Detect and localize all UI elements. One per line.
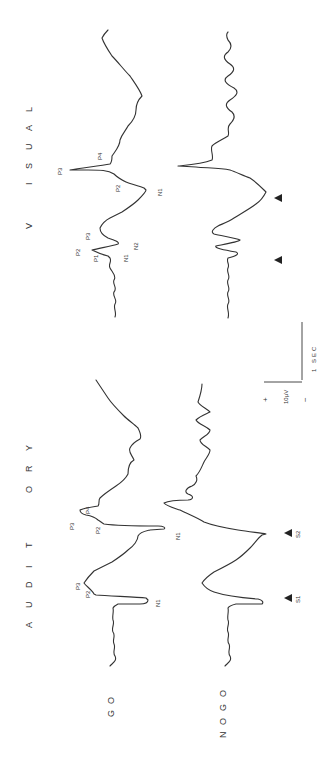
visual-nogo-waveform (178, 32, 266, 318)
svg-text:G: G (106, 710, 116, 717)
scale-bar: 1 SEC + 10μV − (261, 322, 317, 404)
svg-text:N: N (218, 732, 228, 739)
svg-text:O: O (218, 718, 228, 725)
svg-text:P2: P2 (75, 248, 81, 256)
svg-text:P4: P4 (97, 152, 103, 160)
svg-text:10μV: 10μV (283, 390, 289, 404)
svg-text:U: U (24, 144, 34, 151)
s2-marker-icon (284, 529, 292, 537)
auditory-nogo-waveform (164, 384, 266, 666)
svg-text:N1: N1 (123, 254, 129, 262)
auditory-title: A U D I T O R Y (24, 445, 34, 628)
svg-text:S: S (24, 163, 34, 169)
svg-text:+: + (261, 397, 270, 402)
auditory-go-peak-labels: P2 P3 N1 P2 P3 P4 N1 (69, 506, 181, 607)
svg-text:Y: Y (24, 445, 34, 451)
svg-text:G: G (218, 704, 228, 711)
svg-text:T: T (24, 542, 34, 548)
svg-text:P1: P1 (93, 254, 99, 262)
svg-text:I: I (24, 182, 34, 185)
svg-text:N1: N1 (175, 532, 181, 540)
svg-text:V: V (24, 223, 34, 229)
svg-text:P2: P2 (95, 526, 101, 534)
svg-text:A: A (24, 125, 34, 131)
svg-text:O: O (106, 697, 116, 704)
svg-text:O: O (218, 690, 228, 697)
s1-marker-icon (284, 594, 292, 602)
svg-text:−: − (301, 397, 310, 402)
svg-text:A: A (24, 622, 34, 628)
svg-text:1 SEC: 1 SEC (311, 345, 317, 372)
svg-text:O: O (24, 486, 34, 493)
svg-text:D: D (24, 581, 34, 588)
svg-text:S1: S1 (295, 595, 301, 603)
svg-text:S2: S2 (295, 530, 301, 538)
svg-text:N1: N1 (155, 599, 161, 607)
erp-figure: V I S U A L A U D I T O R Y G O N O G O … (0, 0, 324, 760)
svg-text:I: I (24, 565, 34, 568)
svg-text:P3: P3 (69, 522, 75, 530)
svg-text:P4: P4 (85, 506, 91, 514)
visual-s2-marker-icon (274, 194, 282, 202)
visual-s1-marker-icon (274, 256, 282, 264)
nogo-label: N O G O (218, 690, 228, 738)
visual-title: V I S U A L (24, 107, 34, 229)
go-label: G O (106, 697, 116, 717)
svg-text:N1: N1 (157, 188, 163, 196)
visual-go-waveform (70, 30, 146, 317)
svg-text:P3: P3 (75, 582, 81, 590)
svg-text:P2: P2 (85, 590, 91, 598)
svg-text:P3: P3 (57, 167, 63, 175)
svg-text:P3: P3 (85, 232, 91, 240)
visual-stimulus-markers (274, 194, 282, 264)
auditory-stimulus-markers: S1 S2 (284, 529, 301, 603)
svg-text:L: L (24, 107, 34, 112)
svg-text:R: R (24, 465, 34, 472)
svg-text:N2: N2 (133, 242, 139, 250)
svg-text:U: U (24, 602, 34, 609)
svg-text:P2: P2 (115, 184, 121, 192)
auditory-go-waveform (80, 380, 165, 666)
